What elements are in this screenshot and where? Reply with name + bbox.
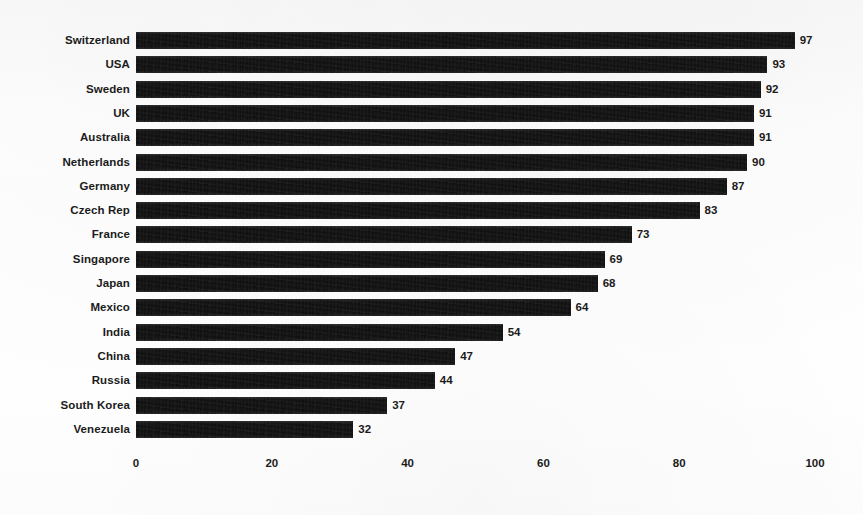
bar-chart: Switzerland97USA93Sweden92UK91Australia9… bbox=[0, 0, 863, 515]
bar-row: Singapore69 bbox=[0, 251, 863, 268]
bar-value-label: 68 bbox=[603, 275, 616, 292]
bar-value-label: 93 bbox=[772, 56, 785, 73]
bar bbox=[136, 105, 754, 122]
x-axis-tick-label: 20 bbox=[252, 456, 292, 470]
category-label: India bbox=[0, 324, 130, 341]
x-axis-tick-label: 60 bbox=[523, 456, 563, 470]
bar-value-label: 91 bbox=[759, 129, 772, 146]
bar-row: USA93 bbox=[0, 56, 863, 73]
category-label: Singapore bbox=[0, 251, 130, 268]
category-label: Netherlands bbox=[0, 154, 130, 171]
bar bbox=[136, 372, 435, 389]
bar-row: Switzerland97 bbox=[0, 32, 863, 49]
bar-value-label: 83 bbox=[705, 202, 718, 219]
bar-value-label: 87 bbox=[732, 178, 745, 195]
bar-value-label: 69 bbox=[610, 251, 623, 268]
category-label: France bbox=[0, 226, 130, 243]
category-label: Russia bbox=[0, 372, 130, 389]
bar-value-label: 47 bbox=[460, 348, 473, 365]
bar bbox=[136, 348, 455, 365]
category-label: Sweden bbox=[0, 81, 130, 98]
bar-row: Russia44 bbox=[0, 372, 863, 389]
bar-value-label: 64 bbox=[576, 299, 589, 316]
category-label: USA bbox=[0, 56, 130, 73]
bar bbox=[136, 299, 571, 316]
bar-value-label: 91 bbox=[759, 105, 772, 122]
bar-row: Australia91 bbox=[0, 129, 863, 146]
plot-area: Switzerland97USA93Sweden92UK91Australia9… bbox=[0, 0, 863, 515]
bar-row: Czech Rep83 bbox=[0, 202, 863, 219]
bar-row: Germany87 bbox=[0, 178, 863, 195]
bar-row: Sweden92 bbox=[0, 81, 863, 98]
bar-row: Japan68 bbox=[0, 275, 863, 292]
bar bbox=[136, 178, 727, 195]
bar-value-label: 54 bbox=[508, 324, 521, 341]
bar bbox=[136, 81, 761, 98]
bar-row: China47 bbox=[0, 348, 863, 365]
bar-value-label: 73 bbox=[637, 226, 650, 243]
category-label: Australia bbox=[0, 129, 130, 146]
category-label: Venezuela bbox=[0, 421, 130, 438]
x-axis-tick-label: 40 bbox=[388, 456, 428, 470]
bar-value-label: 97 bbox=[800, 32, 813, 49]
bar bbox=[136, 202, 700, 219]
x-axis-tick-label: 0 bbox=[116, 456, 156, 470]
bar bbox=[136, 275, 598, 292]
bar-row: Netherlands90 bbox=[0, 154, 863, 171]
bar-row: Venezuela32 bbox=[0, 421, 863, 438]
x-axis-tick-label: 80 bbox=[659, 456, 699, 470]
bar-value-label: 92 bbox=[766, 81, 779, 98]
category-label: Switzerland bbox=[0, 32, 130, 49]
bar bbox=[136, 324, 503, 341]
x-axis-tick-label: 100 bbox=[795, 456, 835, 470]
bar bbox=[136, 56, 767, 73]
bar-row: India54 bbox=[0, 324, 863, 341]
bar bbox=[136, 154, 747, 171]
bar-row: UK91 bbox=[0, 105, 863, 122]
category-label: Germany bbox=[0, 178, 130, 195]
category-label: UK bbox=[0, 105, 130, 122]
bar bbox=[136, 397, 387, 414]
bar bbox=[136, 251, 605, 268]
category-label: Mexico bbox=[0, 299, 130, 316]
bar bbox=[136, 32, 795, 49]
bar bbox=[136, 421, 353, 438]
bar bbox=[136, 226, 632, 243]
bar-value-label: 90 bbox=[752, 154, 765, 171]
category-label: Japan bbox=[0, 275, 130, 292]
bar-value-label: 44 bbox=[440, 372, 453, 389]
category-label: China bbox=[0, 348, 130, 365]
bar-row: South Korea37 bbox=[0, 397, 863, 414]
bar bbox=[136, 129, 754, 146]
category-label: Czech Rep bbox=[0, 202, 130, 219]
bar-value-label: 32 bbox=[358, 421, 371, 438]
bar-row: France73 bbox=[0, 226, 863, 243]
bar-value-label: 37 bbox=[392, 397, 405, 414]
bar-row: Mexico64 bbox=[0, 299, 863, 316]
category-label: South Korea bbox=[0, 397, 130, 414]
